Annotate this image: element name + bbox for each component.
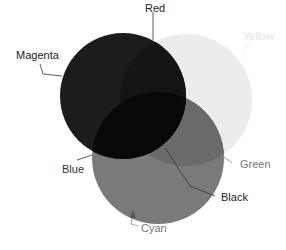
label-magenta: Magenta bbox=[16, 49, 60, 61]
label-cyan: Cyan bbox=[141, 222, 167, 234]
yellow-leader bbox=[243, 42, 250, 50]
magenta-leader bbox=[40, 64, 62, 76]
label-blue: Blue bbox=[62, 163, 84, 175]
venn-svg: Red Magenta Yellow Blue Green Black Cyan bbox=[0, 0, 286, 250]
label-green: Green bbox=[240, 158, 271, 170]
label-red: Red bbox=[145, 2, 165, 14]
blue-leader bbox=[77, 155, 92, 160]
color-venn-diagram: Red Magenta Yellow Blue Green Black Cyan bbox=[0, 0, 286, 250]
label-black: Black bbox=[221, 191, 248, 203]
label-yellow: Yellow bbox=[243, 30, 274, 42]
